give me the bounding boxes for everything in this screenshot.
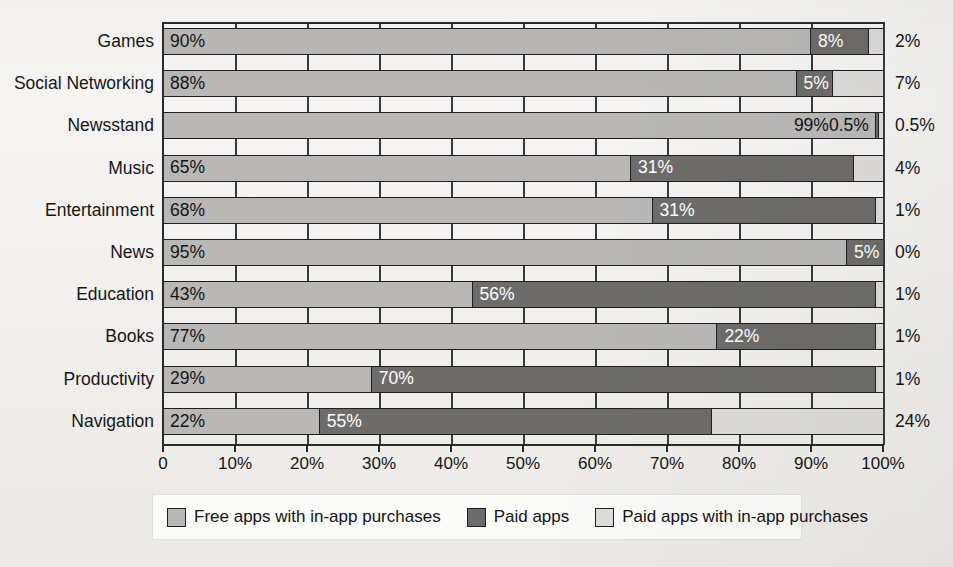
segment-value-label: 55% xyxy=(320,413,362,431)
x-tick-mark xyxy=(882,445,884,452)
x-tick-label: 100% xyxy=(861,454,904,474)
bar-row: Music65%31%4% xyxy=(163,155,883,182)
stacked-bar[interactable]: 95%5% xyxy=(163,239,883,266)
x-tick-label: 80% xyxy=(722,454,756,474)
segment-value-label: 65% xyxy=(163,159,205,177)
stacked-bar[interactable]: 88%5% xyxy=(163,70,883,97)
row-outside-value: 0% xyxy=(895,239,920,266)
x-tick-label: 10% xyxy=(218,454,252,474)
row-outside-value: 1% xyxy=(895,366,920,393)
x-tick-mark xyxy=(666,445,668,452)
bar-segment-paid-iap[interactable] xyxy=(833,71,883,96)
row-outside-value: 1% xyxy=(895,197,920,224)
category-label: Newsstand xyxy=(67,112,154,139)
legend-item[interactable]: Paid apps xyxy=(467,507,570,527)
segment-value-label: 95% xyxy=(163,244,205,262)
segment-value-label: 5% xyxy=(797,75,829,93)
bar-segment-free[interactable]: 22% xyxy=(163,409,320,434)
segment-value-label: 22% xyxy=(717,328,759,346)
x-tick-mark xyxy=(306,445,308,452)
segment-value-label: 88% xyxy=(163,75,205,93)
bar-segment-free[interactable]: 88% xyxy=(163,71,797,96)
bar-row: News95%5%0% xyxy=(163,239,883,266)
row-outside-value: 1% xyxy=(895,323,920,350)
category-label: Navigation xyxy=(71,408,154,435)
category-label: Productivity xyxy=(64,366,154,393)
bar-segment-free[interactable]: 68% xyxy=(163,198,653,223)
category-label: Books xyxy=(105,323,154,350)
row-outside-value: 7% xyxy=(895,70,920,97)
x-tick-label: 70% xyxy=(650,454,684,474)
row-outside-value: 0.5% xyxy=(895,112,935,139)
segment-value-label: 90% xyxy=(163,33,205,51)
segment-value-label: 56% xyxy=(473,286,515,304)
x-tick-label: 0 xyxy=(158,454,167,474)
bar-segment-free[interactable]: 77% xyxy=(163,324,717,349)
segment-value-label: 31% xyxy=(653,202,695,220)
segment-value-label: 43% xyxy=(163,286,205,304)
stacked-bar[interactable]: 90%8% xyxy=(163,28,883,55)
bar-segment-paid[interactable]: 70% xyxy=(372,367,876,392)
x-tick-label: 40% xyxy=(434,454,468,474)
bar-segment-free[interactable]: 99%0.5% xyxy=(163,113,876,138)
category-label: News xyxy=(110,239,154,266)
x-tick-mark xyxy=(594,445,596,452)
segment-value-label: 77% xyxy=(163,328,205,346)
bar-row: Games90%8%2% xyxy=(163,28,883,55)
chart-figure: Games90%8%2%Social Networking88%5%7%News… xyxy=(0,0,953,567)
category-label: Music xyxy=(108,155,154,182)
bar-segment-paid[interactable]: 55% xyxy=(320,409,712,434)
stacked-bar[interactable]: 29%70% xyxy=(163,366,883,393)
bar-segment-paid-iap[interactable] xyxy=(879,113,883,138)
category-label: Entertainment xyxy=(45,197,154,224)
bar-segment-paid[interactable]: 31% xyxy=(653,198,876,223)
segment-value-label: 0.5% xyxy=(829,117,875,135)
bar-segment-paid[interactable]: 5% xyxy=(847,240,883,265)
stacked-bar[interactable]: 43%56% xyxy=(163,281,883,308)
stacked-bar[interactable]: 22%55% xyxy=(163,408,883,435)
bar-segment-paid-iap[interactable] xyxy=(876,324,883,349)
stacked-bar[interactable]: 68%31% xyxy=(163,197,883,224)
plot-area: Games90%8%2%Social Networking88%5%7%News… xyxy=(163,22,883,445)
bar-segment-free[interactable]: 29% xyxy=(163,367,372,392)
bar-segment-paid-iap[interactable] xyxy=(876,282,883,307)
x-axis-ticks: 010%20%30%40%50%60%70%80%90%100% xyxy=(163,445,883,475)
bar-segment-paid-iap[interactable] xyxy=(854,156,883,181)
x-tick-label: 50% xyxy=(506,454,540,474)
legend-item[interactable]: Free apps with in-app purchases xyxy=(167,507,441,527)
bar-segment-paid[interactable]: 56% xyxy=(473,282,876,307)
legend-label: Paid apps xyxy=(494,507,570,527)
legend-item[interactable]: Paid apps with in-app purchases xyxy=(595,507,868,527)
bar-segment-paid-iap[interactable] xyxy=(712,409,883,434)
bar-segment-paid-iap[interactable] xyxy=(876,198,883,223)
segment-value-label: 8% xyxy=(811,33,843,51)
bar-row: Social Networking88%5%7% xyxy=(163,70,883,97)
bar-row: Entertainment68%31%1% xyxy=(163,197,883,224)
bar-segment-free[interactable]: 65% xyxy=(163,156,631,181)
bar-row: Books77%22%1% xyxy=(163,323,883,350)
bar-row: Productivity29%70%1% xyxy=(163,366,883,393)
bar-segment-paid[interactable]: 5% xyxy=(797,71,833,96)
legend-swatch-icon xyxy=(467,508,486,527)
segment-value-label: 70% xyxy=(372,370,414,388)
bar-segment-paid[interactable]: 31% xyxy=(631,156,854,181)
row-outside-value: 1% xyxy=(895,281,920,308)
bar-segment-paid-iap[interactable] xyxy=(869,29,883,54)
legend-swatch-icon xyxy=(595,508,614,527)
bar-segment-paid[interactable]: 8% xyxy=(811,29,869,54)
bar-segment-paid-iap[interactable] xyxy=(876,367,883,392)
bar-segment-free[interactable]: 90% xyxy=(163,29,811,54)
gridline-100 xyxy=(883,22,885,445)
x-tick-mark xyxy=(378,445,380,452)
x-tick-label: 30% xyxy=(362,454,396,474)
x-tick-label: 20% xyxy=(290,454,324,474)
stacked-bar[interactable]: 99%0.5% xyxy=(163,112,883,139)
bar-segment-paid[interactable]: 22% xyxy=(717,324,875,349)
bar-segment-free[interactable]: 95% xyxy=(163,240,847,265)
stacked-bar[interactable]: 65%31% xyxy=(163,155,883,182)
stacked-bar[interactable]: 77%22% xyxy=(163,323,883,350)
segment-value-label: 29% xyxy=(163,370,205,388)
bar-row: Newsstand99%0.5%0.5% xyxy=(163,112,883,139)
x-tick-mark xyxy=(234,445,236,452)
bar-segment-free[interactable]: 43% xyxy=(163,282,473,307)
